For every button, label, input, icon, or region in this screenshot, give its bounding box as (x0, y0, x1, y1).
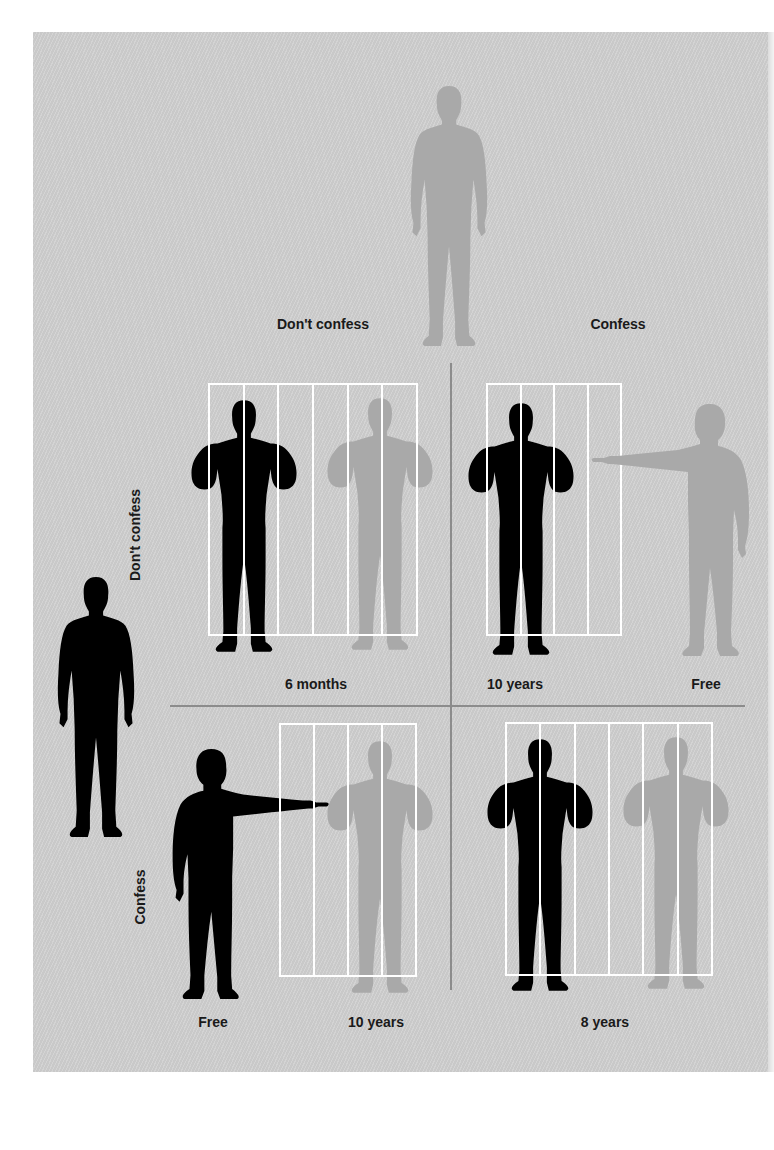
prisoner-b-figure (408, 86, 490, 350)
prisoner-a-figure (55, 577, 137, 841)
row-label-dont-confess: Don't confess (127, 489, 143, 581)
cell-11-sentence: 8 years (581, 1014, 629, 1030)
cell-01-sentence-a: 10 years (487, 676, 543, 692)
column-label-dont-confess: Don't confess (277, 316, 369, 332)
cell-01-prisoner-b-pointing (590, 400, 750, 660)
cell-00-sentence: 6 months (285, 676, 347, 692)
column-label-confess: Confess (590, 316, 645, 332)
horizontal-divider (170, 705, 745, 707)
cell-00-prison-bars (208, 383, 418, 636)
cell-10-sentence-a: Free (198, 1014, 228, 1030)
row-label-confess: Confess (132, 869, 148, 924)
cell-01-sentence-b: Free (691, 676, 721, 692)
cell-10-sentence-b: 10 years (348, 1014, 404, 1030)
cell-10-prison-bars (279, 723, 417, 977)
page-edge (768, 32, 774, 1072)
vertical-divider (450, 363, 452, 990)
cell-11-prison-bars (505, 722, 713, 976)
